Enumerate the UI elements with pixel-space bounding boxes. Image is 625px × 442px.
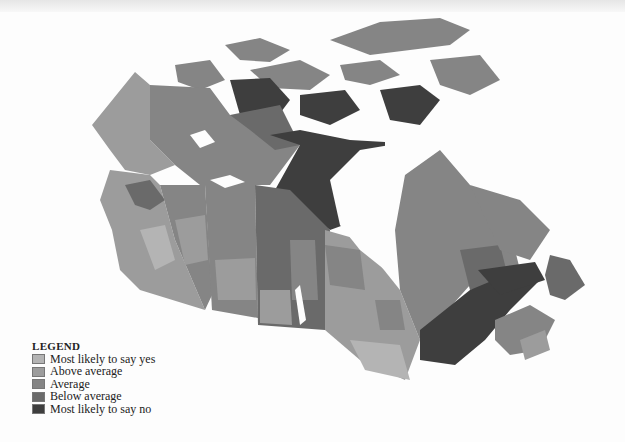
legend-item: Most likely to say no [32,403,155,416]
legend-swatch [32,392,45,402]
legend-label: Most likely to say no [50,402,151,417]
legend: LEGEND Most likely to say yes Above aver… [32,340,155,416]
legend-swatch [32,367,45,377]
legend-swatch [32,404,45,414]
region-newfoundland [545,255,585,300]
legend-swatch [32,354,45,364]
map-page: LEGEND Most likely to say yes Above aver… [0,0,625,442]
legend-swatch [32,379,45,389]
legend-title: LEGEND [32,340,155,352]
